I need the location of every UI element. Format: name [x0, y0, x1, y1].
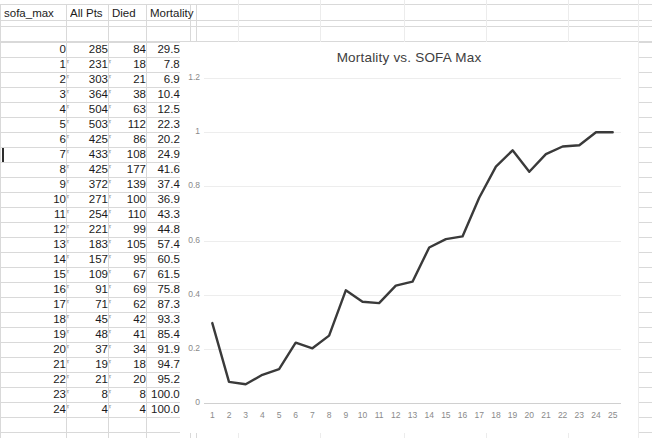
cell-all_pts-2[interactable]: 303 — [68, 72, 108, 87]
cell-died-7[interactable]: 108 — [110, 147, 146, 162]
cell-died-23[interactable]: 8 — [110, 387, 146, 402]
cell-all_pts-5[interactable]: 503 — [68, 117, 108, 132]
cell-died-8[interactable]: 177 — [110, 162, 146, 177]
cell-sofa_max-5[interactable]: 5 — [4, 117, 66, 132]
cell-all_pts-12[interactable]: 221 — [68, 222, 108, 237]
cell-all_pts-3[interactable]: 364 — [68, 87, 108, 102]
cell-died-21[interactable]: 18 — [110, 357, 146, 372]
cell-sofa_max-18[interactable]: 18 — [4, 312, 66, 327]
cell-sofa_max-8[interactable]: 8 — [4, 162, 66, 177]
cell-died-16[interactable]: 69 — [110, 282, 146, 297]
cell-died-11[interactable]: 110 — [110, 207, 146, 222]
cell-all_pts-16[interactable]: 91 — [68, 282, 108, 297]
cell-all_pts-8[interactable]: 425 — [68, 162, 108, 177]
cell-died-2[interactable]: 21 — [110, 72, 146, 87]
cell-all_pts-11[interactable]: 254 — [68, 207, 108, 222]
cell-died-19[interactable]: 41 — [110, 327, 146, 342]
cell-sofa_max-20[interactable]: 20 — [4, 342, 66, 357]
cell-all_pts-0[interactable]: 285 — [68, 42, 108, 57]
cell-died-9[interactable]: 139 — [110, 177, 146, 192]
cell-sofa_max-3[interactable]: 3 — [4, 87, 66, 102]
cell-sofa_max-17[interactable]: 17 — [4, 297, 66, 312]
cell-died-22[interactable]: 20 — [110, 372, 146, 387]
sheet-column-rule — [0, 4, 1, 438]
cell-died-5[interactable]: 112 — [110, 117, 146, 132]
cell-all_pts-23[interactable]: 8 — [68, 387, 108, 402]
cell-sofa_max-4[interactable]: 4 — [4, 102, 66, 117]
cell-died-20[interactable]: 34 — [110, 342, 146, 357]
chart-object[interactable]: Mortality vs. SOFA Max 00.20.40.60.811.2… — [180, 42, 638, 433]
cell-sofa_max-0[interactable]: 0 — [4, 42, 66, 57]
column-header-all-pts[interactable]: All Pts — [70, 6, 110, 21]
column-header-died[interactable]: Died — [112, 6, 148, 21]
sheet-column-rule — [638, 0, 639, 438]
sheet-column-rule — [146, 4, 147, 438]
cell-all_pts-1[interactable]: 231 — [68, 57, 108, 72]
cell-sofa_max-14[interactable]: 14 — [4, 252, 66, 267]
cell-cursor — [2, 148, 4, 162]
cell-all_pts-19[interactable]: 48 — [68, 327, 108, 342]
cell-all_pts-22[interactable]: 21 — [68, 372, 108, 387]
cell-died-12[interactable]: 99 — [110, 222, 146, 237]
cell-died-13[interactable]: 105 — [110, 237, 146, 252]
cell-died-0[interactable]: 84 — [110, 42, 146, 57]
cell-all_pts-13[interactable]: 183 — [68, 237, 108, 252]
cell-sofa_max-9[interactable]: 9 — [4, 177, 66, 192]
cell-all_pts-20[interactable]: 37 — [68, 342, 108, 357]
cell-died-6[interactable]: 86 — [110, 132, 146, 147]
cell-died-4[interactable]: 63 — [110, 102, 146, 117]
cell-died-17[interactable]: 62 — [110, 297, 146, 312]
cell-sofa_max-1[interactable]: 1 — [4, 57, 66, 72]
cell-sofa_max-11[interactable]: 11 — [4, 207, 66, 222]
cell-died-1[interactable]: 18 — [110, 57, 146, 72]
cell-all_pts-24[interactable]: 4 — [68, 402, 108, 417]
cell-sofa_max-22[interactable]: 22 — [4, 372, 66, 387]
cell-died-24[interactable]: 4 — [110, 402, 146, 417]
cell-all_pts-18[interactable]: 45 — [68, 312, 108, 327]
cell-sofa_max-12[interactable]: 12 — [4, 222, 66, 237]
cell-all_pts-7[interactable]: 433 — [68, 147, 108, 162]
cell-died-14[interactable]: 95 — [110, 252, 146, 267]
cell-sofa_max-19[interactable]: 19 — [4, 327, 66, 342]
cell-sofa_max-21[interactable]: 21 — [4, 357, 66, 372]
cell-died-18[interactable]: 42 — [110, 312, 146, 327]
cell-sofa_max-2[interactable]: 2 — [4, 72, 66, 87]
cell-sofa_max-13[interactable]: 13 — [4, 237, 66, 252]
cell-sofa_max-24[interactable]: 24 — [4, 402, 66, 417]
cell-sofa_max-10[interactable]: 10 — [4, 192, 66, 207]
line-series — [180, 42, 638, 433]
cell-all_pts-9[interactable]: 372 — [68, 177, 108, 192]
cell-all_pts-14[interactable]: 157 — [68, 252, 108, 267]
cell-died-10[interactable]: 100 — [110, 192, 146, 207]
cell-sofa_max-23[interactable]: 23 — [4, 387, 66, 402]
cell-sofa_max-16[interactable]: 16 — [4, 282, 66, 297]
cell-sofa_max-6[interactable]: 6 — [4, 132, 66, 147]
column-header-sofa-max[interactable]: sofa_max — [4, 6, 66, 21]
cell-all_pts-21[interactable]: 19 — [68, 357, 108, 372]
spreadsheet-canvas: sofa_maxAll PtsDiedMortality02858429.5%1… — [0, 0, 652, 438]
column-header-mortality[interactable]: Mortality — [150, 6, 196, 21]
cell-all_pts-17[interactable]: 71 — [68, 297, 108, 312]
cell-died-3[interactable]: 38 — [110, 87, 146, 102]
cell-all_pts-6[interactable]: 425 — [68, 132, 108, 147]
cell-sofa_max-7[interactable]: 7 — [4, 147, 66, 162]
cell-sofa_max-15[interactable]: 15 — [4, 267, 66, 282]
cell-all_pts-10[interactable]: 271 — [68, 192, 108, 207]
cell-all_pts-4[interactable]: 504 — [68, 102, 108, 117]
cell-all_pts-15[interactable]: 109 — [68, 267, 108, 282]
sheet-row-rule — [0, 4, 652, 5]
sheet-row-rule — [0, 26, 652, 27]
cell-died-15[interactable]: 67 — [110, 267, 146, 282]
